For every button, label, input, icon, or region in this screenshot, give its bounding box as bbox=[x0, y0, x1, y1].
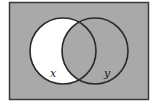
venn-diagram: x y bbox=[0, 0, 156, 104]
set-y-label: y bbox=[103, 67, 111, 80]
set-x-label: x bbox=[50, 67, 57, 80]
